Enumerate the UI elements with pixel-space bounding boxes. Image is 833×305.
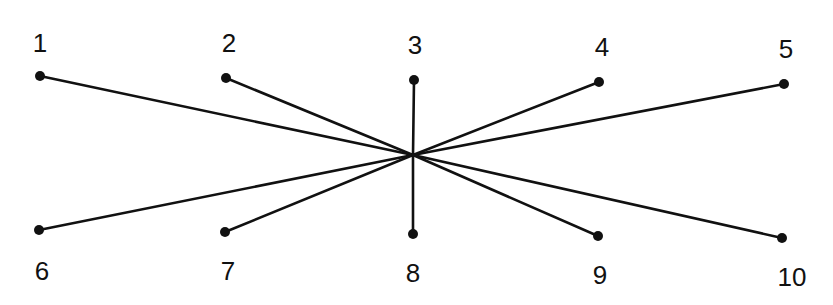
node-point-10 bbox=[777, 233, 787, 243]
edge-hub-to-9 bbox=[413, 155, 598, 236]
edge-hub-to-10 bbox=[413, 155, 782, 238]
node-label-6: 6 bbox=[35, 256, 49, 286]
node-label-8: 8 bbox=[406, 258, 420, 288]
node-label-4: 4 bbox=[595, 32, 609, 62]
star-diagram: 12345678910 bbox=[0, 0, 833, 305]
node-point-9 bbox=[593, 231, 603, 241]
node-label-3: 3 bbox=[408, 30, 422, 60]
edge-hub-to-6 bbox=[39, 155, 413, 230]
node-label-2: 2 bbox=[222, 28, 236, 58]
node-label-5: 5 bbox=[779, 34, 793, 64]
edge-hub-to-2 bbox=[226, 78, 413, 155]
node-point-5 bbox=[779, 79, 789, 89]
node-point-1 bbox=[35, 71, 45, 81]
node-point-7 bbox=[220, 227, 230, 237]
node-point-3 bbox=[409, 75, 419, 85]
node-point-6 bbox=[34, 225, 44, 235]
node-label-1: 1 bbox=[33, 28, 47, 58]
node-point-4 bbox=[594, 77, 604, 87]
labels-group: 12345678910 bbox=[33, 28, 807, 292]
node-label-9: 9 bbox=[593, 260, 607, 290]
edge-hub-to-5 bbox=[413, 84, 784, 155]
edge-hub-to-7 bbox=[225, 155, 413, 232]
node-point-2 bbox=[221, 73, 231, 83]
edge-hub-to-1 bbox=[40, 76, 413, 155]
node-label-7: 7 bbox=[221, 256, 235, 286]
edges-group bbox=[39, 76, 784, 238]
edge-hub-to-3 bbox=[413, 80, 414, 155]
node-point-8 bbox=[408, 229, 418, 239]
edge-hub-to-4 bbox=[413, 82, 599, 155]
node-label-10: 10 bbox=[778, 262, 807, 292]
